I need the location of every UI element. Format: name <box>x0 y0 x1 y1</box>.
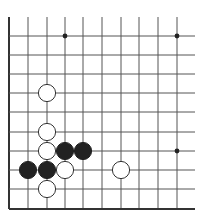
white-stone <box>56 161 73 178</box>
black-stone <box>38 161 55 178</box>
black-stone <box>56 142 73 159</box>
go-board <box>0 0 204 222</box>
board-grid <box>9 17 195 209</box>
black-stone <box>19 161 36 178</box>
star-point <box>175 34 180 39</box>
star-point <box>63 34 68 39</box>
white-stone <box>38 180 55 197</box>
stones <box>19 84 129 197</box>
white-stone <box>38 123 55 140</box>
white-stone <box>38 142 55 159</box>
white-stone <box>112 161 129 178</box>
white-stone <box>38 84 55 101</box>
black-stone <box>74 142 91 159</box>
star-point <box>175 149 180 154</box>
